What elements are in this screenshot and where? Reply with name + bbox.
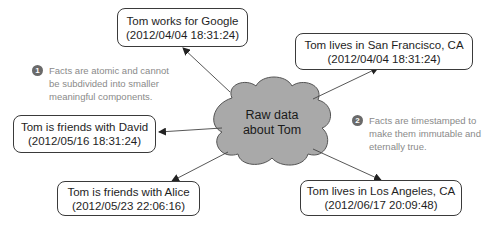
note-line: make them immutable and (369, 127, 481, 140)
note-line: Facts are timestamped to (369, 114, 481, 127)
fact-text: Tom is friends with Alice (58, 185, 199, 199)
fact-text: Tom lives in Los Angeles, CA (301, 184, 461, 198)
fact-box-google: Tom works for Google (2012/04/04 18:31:2… (117, 8, 248, 47)
arrow-to-google (183, 48, 230, 92)
fact-box-sf: Tom lives in San Francisco, CA (2012/04/… (295, 33, 473, 70)
arrow-to-alice (172, 152, 228, 181)
fact-timestamp: (2012/05/16 18:31:24) (14, 134, 155, 148)
number-badge-icon: 2 (352, 115, 363, 126)
number-badge-icon: 1 (32, 65, 43, 76)
fact-text: Tom works for Google (118, 14, 247, 28)
note-line: eternally true. (369, 140, 481, 153)
arrow-to-la (313, 149, 381, 180)
center-label-line2: about Tom (232, 123, 312, 138)
fact-timestamp: (2012/06/17 20:09:48) (301, 198, 461, 212)
center-label: Raw data about Tom (232, 108, 312, 138)
fact-box-alice: Tom is friends with Alice (2012/05/23 22… (57, 181, 200, 216)
fact-timestamp: (2012/04/04 18:31:24) (296, 52, 472, 66)
arrow-to-david (159, 128, 222, 132)
fact-timestamp: (2012/05/23 22:06:16) (58, 199, 199, 213)
center-label-line1: Raw data (232, 108, 312, 123)
arrow-to-sf (313, 68, 378, 99)
fact-text: Tom lives in San Francisco, CA (296, 38, 472, 52)
note-timestamped: 2 Facts are timestamped to make them imm… (369, 114, 481, 153)
note-line: meaningful components. (49, 90, 169, 103)
fact-text: Tom is friends with David (14, 120, 155, 134)
fact-box-david: Tom is friends with David (2012/05/16 18… (13, 115, 156, 153)
fact-timestamp: (2012/04/04 18:31:24) (118, 28, 247, 42)
note-line: Facts are atomic and cannot (49, 64, 169, 77)
note-atomic: 1 Facts are atomic and cannot be subdivi… (49, 64, 169, 103)
note-line: be subdivided into smaller (49, 77, 169, 90)
fact-box-la: Tom lives in Los Angeles, CA (2012/06/17… (300, 180, 462, 216)
